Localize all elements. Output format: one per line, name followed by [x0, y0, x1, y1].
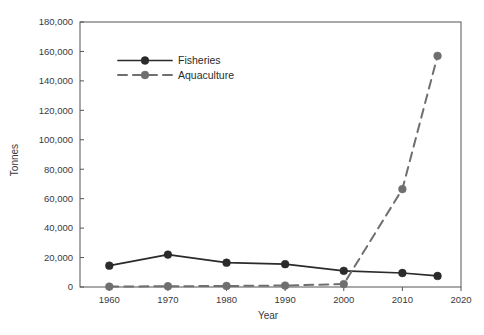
y-tick-label: 180,000 [39, 16, 73, 27]
legend-marker-icon [141, 57, 149, 65]
y-tick-label: 20,000 [44, 252, 73, 263]
y-tick-label: 0 [68, 281, 73, 292]
y-tick-label: 120,000 [39, 105, 73, 116]
data-point-marker [164, 282, 172, 290]
data-point-marker [434, 272, 442, 280]
data-point-marker [164, 251, 172, 259]
x-tick-label: 2020 [450, 294, 471, 305]
x-tick-label: 1960 [99, 294, 120, 305]
data-point-marker [340, 267, 348, 275]
data-point-marker [105, 262, 113, 270]
y-tick-label: 140,000 [39, 75, 73, 86]
y-tick-label: 160,000 [39, 46, 73, 57]
x-tick-label: 2010 [392, 294, 413, 305]
y-axis-title: Tonnes [9, 144, 20, 176]
legend-label: Aquaculture [178, 69, 234, 81]
x-tick-label: 1970 [157, 294, 178, 305]
data-point-marker [398, 269, 406, 277]
data-point-marker [398, 185, 406, 193]
x-axis-title: Year [258, 310, 279, 321]
legend-label: Fisheries [178, 54, 221, 66]
y-tick-label: 80,000 [44, 164, 73, 175]
data-point-marker [105, 283, 113, 291]
y-tick-label: 40,000 [44, 222, 73, 233]
chart-container: 020,00040,00060,00080,000100,000120,0001… [0, 0, 484, 335]
data-point-marker [281, 282, 289, 290]
data-point-marker [281, 260, 289, 268]
data-point-marker [223, 282, 231, 290]
x-tick-label: 1980 [216, 294, 237, 305]
y-tick-label: 60,000 [44, 193, 73, 204]
x-tick-label: 1990 [275, 294, 296, 305]
data-point-marker [340, 280, 348, 288]
data-point-marker [434, 52, 442, 60]
legend-marker-icon [141, 71, 149, 79]
line-chart: 020,00040,00060,00080,000100,000120,0001… [0, 0, 484, 335]
y-tick-label: 100,000 [39, 134, 73, 145]
data-point-marker [223, 259, 231, 267]
x-tick-label: 2000 [333, 294, 354, 305]
